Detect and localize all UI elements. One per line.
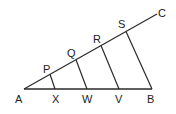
segment-AC — [24, 14, 157, 89]
label-C: C — [158, 7, 166, 19]
geometry-diagram: A X W V B P Q R S C — [0, 0, 176, 114]
segment-SB — [126, 32, 152, 90]
segment-RV — [101, 46, 119, 89]
label-R: R — [93, 33, 101, 45]
label-S: S — [118, 18, 125, 30]
label-V: V — [115, 93, 123, 105]
label-W: W — [82, 93, 93, 105]
label-X: X — [52, 93, 60, 105]
label-Q: Q — [67, 47, 76, 59]
segment-PX — [50, 74, 55, 89]
label-A: A — [15, 93, 23, 105]
label-P: P — [43, 63, 50, 75]
label-B: B — [147, 93, 154, 105]
segment-QW — [76, 60, 87, 89]
